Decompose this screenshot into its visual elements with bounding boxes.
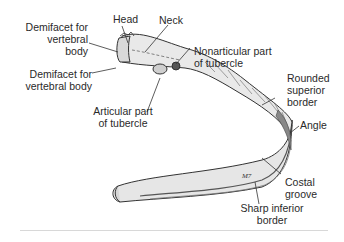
label-articular: Articular part of tubercle xyxy=(75,105,171,129)
label-neck: Neck xyxy=(159,14,183,26)
label-costal-groove: Costal groove xyxy=(285,176,317,200)
label-demifacet-upper: Demifacet for vertebral body xyxy=(14,21,88,57)
label-rounded-superior: Rounded superior border xyxy=(287,72,330,108)
label-nonarticular: Nonarticular part of tubercle xyxy=(194,45,272,69)
label-demifacet-lower: Demifacet for vertebral body xyxy=(10,68,92,92)
bottom-divider xyxy=(20,230,328,231)
label-angle: Angle xyxy=(300,119,327,131)
label-sharp-inferior: Sharp inferior border xyxy=(232,202,312,226)
artist-signature: M7 xyxy=(241,172,252,180)
label-head: Head xyxy=(113,13,138,25)
